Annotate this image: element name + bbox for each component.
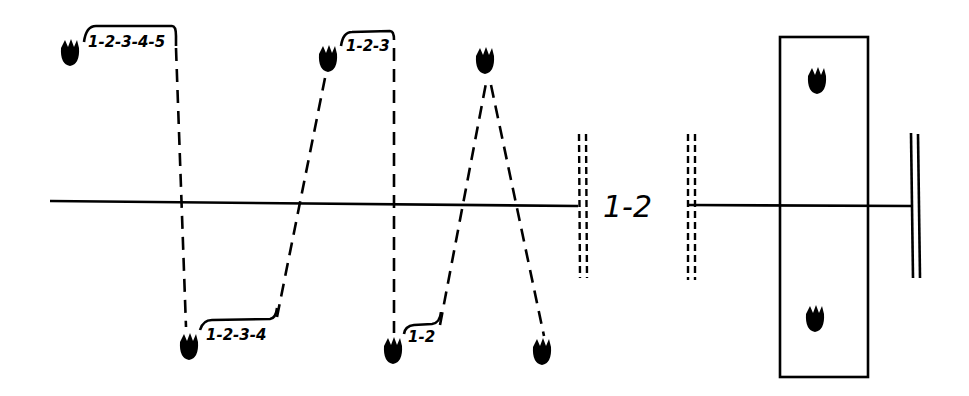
break-marker-right — [688, 134, 695, 280]
footprint-icon — [808, 67, 826, 94]
footprint-icon — [61, 39, 79, 66]
break-marker-left — [579, 134, 587, 278]
footprint-icon — [533, 338, 551, 365]
midline-right — [688, 205, 912, 206]
label-pad-2: 1-2-3-4 — [206, 326, 266, 344]
label-pad-4: 1-2 — [408, 328, 435, 346]
gap-label: 1-2 — [603, 189, 652, 224]
step-path — [176, 48, 544, 336]
midline-left — [50, 201, 578, 206]
label-pad-3: 1-2-3 — [346, 37, 390, 55]
label-pad-1: 1-2-3-4-5 — [88, 33, 165, 51]
footprint-icon — [319, 45, 337, 72]
footprint-icon — [384, 337, 402, 364]
end-marker — [911, 133, 920, 278]
footprint-icon — [476, 47, 494, 74]
footprint-icon — [806, 305, 824, 332]
footprint-diagram: 1-2-3-4-5 1-2-3 1-2-3-4 1-2 1-2 — [0, 0, 969, 396]
brackets — [84, 26, 441, 334]
footprint-icon — [180, 333, 198, 360]
